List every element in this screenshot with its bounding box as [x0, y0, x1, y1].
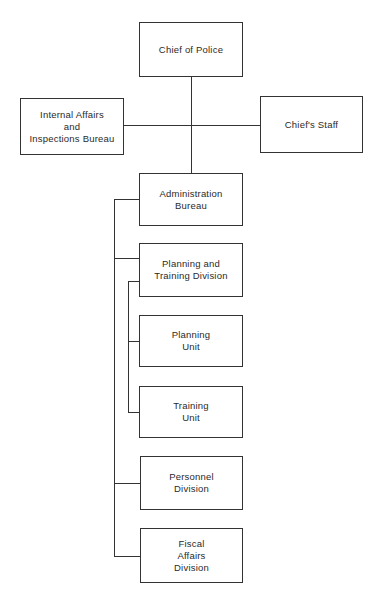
node-label: Chief's Staff — [285, 119, 338, 131]
connector-staff-horizontal — [124, 125, 260, 126]
node-label: Chief of Police — [159, 44, 223, 56]
connector-admin-spine — [114, 199, 115, 557]
connector-planning-training-stub — [114, 258, 139, 259]
node-chiefs-staff: Chief's Staff — [260, 96, 363, 153]
connector-personnel-stub — [114, 483, 140, 484]
node-label: Planning and Training Division — [154, 258, 227, 282]
node-planning-unit: Planning Unit — [139, 315, 243, 367]
node-label: Planning Unit — [172, 329, 211, 353]
connector-planning-unit-stub — [128, 341, 139, 342]
node-label: Fiscal Affairs Division — [174, 538, 209, 574]
node-chief-of-police: Chief of Police — [139, 22, 243, 77]
node-label: Administration Bureau — [160, 188, 223, 212]
node-personnel-division: Personnel Division — [140, 456, 243, 510]
connector-admin-stub — [114, 199, 139, 200]
connector-division-spine — [128, 281, 129, 412]
node-label: Training Unit — [173, 400, 209, 424]
connector-division-top-stub — [128, 281, 139, 282]
node-planning-training-division: Planning and Training Division — [139, 243, 243, 297]
node-label: Personnel Division — [169, 471, 214, 495]
node-training-unit: Training Unit — [139, 386, 243, 438]
connector-training-unit-stub — [128, 412, 139, 413]
node-label: Internal Affairs and Inspections Bureau — [30, 109, 115, 145]
node-administration-bureau: Administration Bureau — [139, 173, 243, 226]
node-internal-affairs: Internal Affairs and Inspections Bureau — [20, 98, 124, 155]
connector-fiscal-stub — [114, 556, 140, 557]
node-fiscal-affairs-division: Fiscal Affairs Division — [140, 528, 243, 583]
